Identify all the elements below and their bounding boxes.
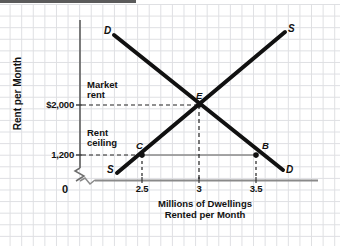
point-marker-e [196, 102, 202, 108]
point-label-b: B [262, 141, 269, 151]
y-axis-title: Rent per Month [12, 46, 23, 142]
point-marker-b [253, 152, 259, 158]
demand-curve-label-bottom: D [286, 165, 293, 176]
rent-ceiling-annotation-line2: ceiling [87, 138, 117, 148]
demand-curve-label-top: D [104, 26, 111, 37]
chart-figure: Rent per Month $2,000 1,200 0 2.5 3 3.5 … [0, 0, 340, 246]
point-marker-c [139, 152, 145, 158]
x-axis-title-line1: Millions of Dwellings [115, 199, 295, 209]
supply-curve-label-top: S [288, 24, 295, 35]
y-tick-label-1200: 1,200 [28, 150, 74, 160]
point-label-c: C [136, 141, 143, 151]
y-tick-label-2000: $2,000 [28, 100, 74, 110]
x-axis-break-icon [80, 178, 95, 184]
x-tick-label-3-5: 3.5 [244, 184, 268, 194]
point-label-e: E [196, 91, 202, 101]
supply-curve-label-bottom: S [107, 165, 114, 176]
x-axis-title-line2: Rented per Month [115, 210, 295, 220]
x-tick-label-3: 3 [189, 184, 209, 194]
x-tick-label-2-5: 2.5 [130, 184, 154, 194]
market-rent-annotation-line2: rent [87, 90, 105, 100]
origin-label: 0 [62, 184, 68, 196]
